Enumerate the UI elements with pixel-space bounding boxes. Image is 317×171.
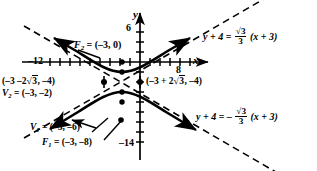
equation-asymptote-positive: y + 4 = √3 3 (x + 3) [203, 27, 277, 46]
asymptote-negative [24, 26, 300, 171]
tick-label-neg14: –14 [119, 137, 134, 148]
point-f1-leader-dot [118, 117, 124, 123]
label-f2: F2 = (–3, 0) [74, 39, 121, 51]
tick-label-neg12: –12 [28, 55, 43, 66]
label-point-left: (–3 –2√3, –4) [2, 76, 55, 86]
point-right [137, 79, 143, 85]
label-f1: F1 = (–3, –8) [42, 137, 92, 148]
label-v1: V1 = (–3, –6) [30, 122, 80, 133]
tick-label-6: 6 [126, 22, 131, 33]
point-f1 [119, 99, 124, 104]
tick-label-8: 8 [176, 64, 181, 75]
label-point-right: (–3 + 2√3, –4) [146, 76, 202, 86]
hyperbola-figure: F2 = (–3, 0) –12 8 6 –14 y x (–3 –2√3, –… [0, 0, 317, 171]
axis-label-y: y [133, 8, 138, 20]
equation-asymptote-negative: y + 4 = – √3 3 (x + 3) [196, 107, 278, 126]
axis-label-x: x [193, 54, 199, 66]
label-v2: V2 = (–3, –2) [2, 88, 52, 99]
point-left [101, 79, 107, 85]
point-v2 [119, 69, 124, 74]
point-v1 [119, 89, 124, 94]
box-marks [104, 76, 140, 88]
point-f2 [119, 59, 124, 64]
